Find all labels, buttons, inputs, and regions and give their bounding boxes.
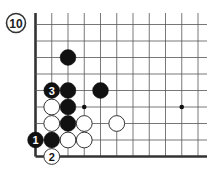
black-stone xyxy=(93,83,109,99)
stone-disc xyxy=(60,116,76,132)
black-stone xyxy=(60,116,76,132)
stone-disc xyxy=(76,132,92,148)
white-stone: 2 xyxy=(44,149,60,165)
black-stone xyxy=(60,99,76,115)
black-stone xyxy=(60,83,76,99)
diagram-number: 10 xyxy=(9,17,23,31)
star-point xyxy=(179,105,184,110)
board-grid xyxy=(36,13,208,157)
stone-disc xyxy=(60,83,76,99)
stone-disc xyxy=(44,99,60,115)
white-stone xyxy=(109,116,125,132)
white-stone xyxy=(44,99,60,115)
black-stone: 3 xyxy=(44,83,60,99)
white-stone xyxy=(60,132,76,148)
stone-disc xyxy=(44,132,60,148)
white-stone xyxy=(44,116,60,132)
move-number-label: 3 xyxy=(49,85,55,97)
stone-disc xyxy=(60,132,76,148)
white-stone xyxy=(76,132,92,148)
stone-disc xyxy=(60,99,76,115)
white-stone xyxy=(76,116,92,132)
stone-disc xyxy=(109,116,125,132)
go-board-diagram: 10 312 xyxy=(0,0,215,175)
black-stone xyxy=(44,132,60,148)
black-stone: 1 xyxy=(28,132,44,148)
black-stone xyxy=(60,50,76,66)
move-number-label: 2 xyxy=(49,151,55,163)
star-point xyxy=(82,105,87,110)
move-number-label: 1 xyxy=(32,134,38,146)
diagram-number-badge: 10 xyxy=(7,14,26,33)
stone-disc xyxy=(93,83,109,99)
stone-disc xyxy=(44,116,60,132)
stone-disc xyxy=(76,116,92,132)
stone-disc xyxy=(60,50,76,66)
